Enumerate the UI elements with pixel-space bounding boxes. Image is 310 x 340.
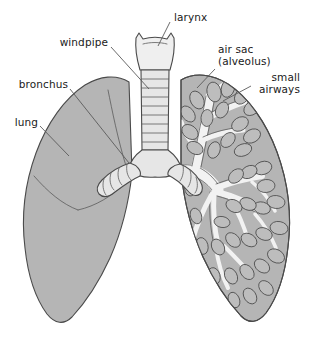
label-small-airways-line1: small [272, 71, 300, 83]
right-lung-group [178, 75, 290, 321]
label-larynx: larynx [174, 11, 207, 23]
label-air-sac-line2: (alveolus) [218, 55, 271, 67]
label-lung: lung [15, 116, 38, 128]
label-air-sac-line1: air sac [218, 43, 254, 55]
left-lung-outline [23, 77, 132, 322]
lung-anatomy-illustration: larynx windpipe bronchus lung air sac (a… [0, 0, 310, 340]
larynx-group [136, 33, 175, 70]
label-bronchus: bronchus [19, 78, 68, 90]
label-windpipe: windpipe [60, 36, 108, 48]
alveolus [200, 281, 213, 298]
trachea-tube [141, 70, 169, 150]
lung-diagram-canvas: larynx windpipe bronchus lung air sac (a… [0, 0, 310, 340]
left-lung-group [23, 77, 132, 322]
larynx-outline [136, 33, 175, 70]
trachea-group [141, 70, 169, 150]
label-small-airways-line2: airways [259, 83, 300, 95]
